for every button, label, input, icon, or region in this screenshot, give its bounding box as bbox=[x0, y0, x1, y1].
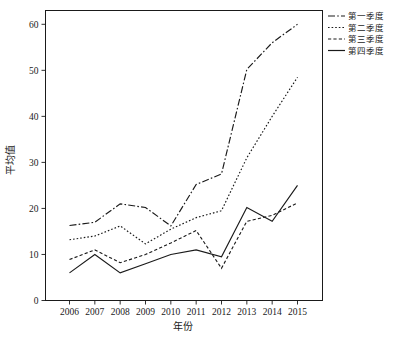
chart-canvas: 0102030405060 20062007200820092010201120… bbox=[0, 0, 397, 339]
x-axis-title: 年份 bbox=[173, 320, 193, 332]
x-tick-label: 2010 bbox=[161, 307, 180, 317]
chart-legend: 第一季度第二季度第三季度第四季度 bbox=[328, 11, 384, 56]
x-tick-label: 2013 bbox=[237, 307, 256, 317]
legend-label-3: 第三季度 bbox=[348, 34, 384, 44]
legend-label-1: 第一季度 bbox=[348, 11, 384, 21]
line-chart-figure: 0102030405060 20062007200820092010201120… bbox=[0, 0, 397, 339]
x-tick-label: 2014 bbox=[263, 307, 282, 317]
series-line-3 bbox=[70, 203, 298, 268]
x-tick-label: 2015 bbox=[288, 307, 307, 317]
series-line-4 bbox=[70, 185, 298, 272]
series-line-1 bbox=[70, 24, 298, 226]
y-axis-ticks: 0102030405060 bbox=[29, 20, 46, 306]
plot-frame bbox=[46, 11, 323, 301]
x-tick-label: 2008 bbox=[111, 307, 130, 317]
x-tick-label: 2012 bbox=[212, 307, 231, 317]
y-tick-label: 50 bbox=[29, 66, 39, 76]
y-axis-title: 平均值 bbox=[4, 145, 16, 175]
series-lines bbox=[70, 24, 298, 273]
series-line-2 bbox=[70, 77, 298, 244]
x-tick-label: 2011 bbox=[187, 307, 206, 317]
legend-label-4: 第四季度 bbox=[348, 46, 384, 56]
x-tick-label: 2006 bbox=[60, 307, 79, 317]
x-tick-label: 2007 bbox=[85, 307, 104, 317]
y-tick-label: 10 bbox=[29, 250, 39, 260]
x-tick-label: 2009 bbox=[136, 307, 155, 317]
x-axis-ticks: 2006200720082009201020112012201320142015 bbox=[60, 301, 307, 317]
y-tick-label: 60 bbox=[29, 20, 39, 30]
legend-label-2: 第二季度 bbox=[348, 23, 384, 33]
y-tick-label: 40 bbox=[29, 112, 39, 122]
y-tick-label: 30 bbox=[29, 158, 39, 168]
y-tick-label: 20 bbox=[29, 204, 39, 214]
y-tick-label: 0 bbox=[34, 296, 39, 306]
